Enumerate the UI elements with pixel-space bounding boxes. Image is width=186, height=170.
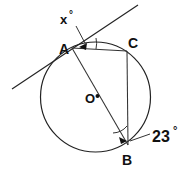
leader-line-x: [76, 26, 86, 45]
label-angle-x: x: [60, 12, 68, 27]
center-dot: [96, 94, 100, 98]
geometry-canvas: A B C O x ° 23 °: [0, 0, 186, 170]
label-angle-23: 23: [152, 128, 170, 145]
chord-cb: [127, 51, 128, 145]
label-point-a: A: [59, 41, 69, 57]
label-angle-x-degree-symbol: °: [69, 9, 73, 20]
label-point-b: B: [122, 152, 132, 168]
chord-ac: [72, 48, 127, 51]
label-center-o: O: [85, 91, 95, 106]
angle-arc-at-b: [113, 126, 127, 133]
label-angle-23-degree-symbol: °: [173, 124, 177, 136]
label-point-c: C: [128, 35, 138, 51]
geometry-figure: A B C O x ° 23 °: [0, 0, 186, 170]
diameter-ab: [72, 48, 128, 145]
angle-arc-at-a: [96, 38, 97, 49]
